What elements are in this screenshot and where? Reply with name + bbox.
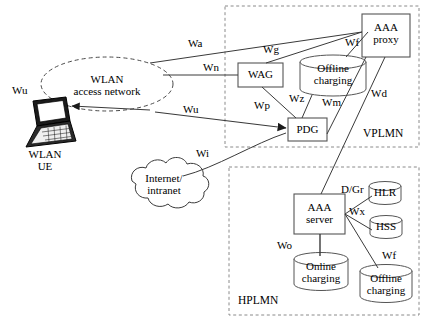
offline-charging-hplmn-label-line2: charging <box>360 284 412 296</box>
label-wu-mid: Wu <box>183 104 198 116</box>
label-wd: Wd <box>371 88 387 100</box>
wag-label: WAG <box>238 68 283 80</box>
offline-charging-vplmn-label: Offline charging <box>300 62 366 86</box>
pdg-label: PDG <box>288 123 327 135</box>
offline-charging-vplmn-label-line2: charging <box>300 74 366 86</box>
internet-intranet-label-line1: Internet/ <box>122 172 206 184</box>
label-wz: Wz <box>289 93 304 105</box>
wlan-ue-label-line1: WLAN <box>6 148 84 160</box>
aaa-proxy-label-line2: proxy <box>362 33 410 45</box>
wlan-ue-laptop-icon <box>26 97 76 147</box>
label-wp: Wp <box>254 100 270 112</box>
aaa-server-label-line1: AAA <box>294 201 345 213</box>
internet-intranet-label: Internet/ intranet <box>122 172 206 196</box>
aaa-proxy-label-line1: AAA <box>362 21 410 33</box>
network-architecture-diagram: WLAN access network WLAN UE Internet/ in… <box>0 0 423 324</box>
offline-charging-vplmn-label-line1: Offline <box>300 62 366 74</box>
pdg-label-line1: PDG <box>288 123 327 135</box>
offline-charging-hplmn-label-line1: Offline <box>360 272 412 284</box>
hlr-label: HLR <box>369 186 401 198</box>
wlan-ue-label: WLAN UE <box>6 148 84 172</box>
wlan-access-network-label: WLAN access network <box>57 73 157 97</box>
label-d-gr: D/Gr <box>341 184 364 196</box>
aaa-server-label: AAA server <box>294 201 345 225</box>
wag-label-line1: WAG <box>238 68 283 80</box>
label-wg: Wg <box>263 44 279 56</box>
wlan-ue-label-line2: UE <box>6 160 84 172</box>
online-charging-label-line1: Online <box>294 260 348 272</box>
aaa-server-label-line2: server <box>294 213 345 225</box>
label-wa: Wa <box>188 38 202 50</box>
wlan-access-network-label-line1: WLAN <box>57 73 157 85</box>
zone-label-vplmn: VPLMN <box>363 127 403 139</box>
wlan-access-network-label-line2: access network <box>57 85 157 97</box>
label-wm: Wm <box>322 97 341 109</box>
hss-label: HSS <box>370 220 402 232</box>
label-wu-left: Wu <box>12 85 27 97</box>
internet-intranet-label-line2: intranet <box>122 184 206 196</box>
online-charging-label: Online charging <box>294 260 348 284</box>
offline-charging-hplmn-label: Offline charging <box>360 272 412 296</box>
zone-label-hplmn: HPLMN <box>238 294 278 306</box>
label-wx: Wx <box>349 206 365 218</box>
online-charging-label-line2: charging <box>294 272 348 284</box>
label-wi: Wi <box>196 148 209 160</box>
aaa-proxy-label: AAA proxy <box>362 21 410 45</box>
link-wu-pdg <box>155 112 286 128</box>
label-wn: Wn <box>203 62 219 74</box>
hss-label-line1: HSS <box>370 220 402 232</box>
hlr-label-line1: HLR <box>369 186 401 198</box>
label-wo: Wo <box>277 240 292 252</box>
label-wf-vplmn: Wf <box>345 37 359 49</box>
label-wf-hplmn: Wf <box>382 250 396 262</box>
